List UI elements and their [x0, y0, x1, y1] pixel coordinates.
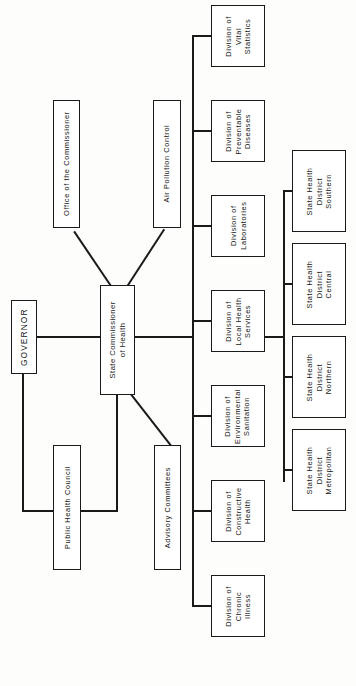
node-district-central[interactable]: State HealthDistrictCentral: [292, 243, 346, 325]
stub-division-5: [192, 510, 212, 512]
connector-governor-down: [22, 374, 24, 512]
stub-division-1: [192, 130, 212, 132]
node-office-of-the-commissioner[interactable]: Office of the Commissioner: [53, 100, 80, 228]
org-chart-canvas: GOVERNOR State Commissionerof Health Off…: [0, 0, 356, 686]
node-district-metropolitan[interactable]: State HealthDistrictMetropolitan: [292, 429, 346, 511]
node-division-constructive-health-label: Division ofConstructiveHealth: [224, 487, 253, 535]
node-public-health-council-label: Public Health Council: [62, 466, 71, 549]
districts-bus: [283, 190, 285, 482]
connector-commissioner-down: [116, 395, 118, 512]
connector-commissioner-to-air-pollution: [125, 229, 165, 289]
node-division-vital-statistics-label: Division ofVitalStatistics: [224, 16, 253, 57]
node-advisory-committees[interactable]: Advisory Committees: [154, 445, 181, 570]
stub-division-2: [192, 225, 212, 227]
stub-division-3: [192, 320, 212, 322]
stub-division-6: [192, 605, 212, 607]
node-division-local-health-services-label: Division ofLocal HealthServices: [224, 297, 253, 345]
connector-governor-to-commissioner: [36, 336, 101, 338]
node-district-northern-label: State HealthDistrictNorthern: [305, 353, 334, 401]
node-division-local-health-services[interactable]: Division ofLocal HealthServices: [211, 290, 265, 352]
node-district-metropolitan-label: State HealthDistrictMetropolitan: [305, 446, 334, 494]
connector-local-health-to-districts: [265, 336, 285, 338]
node-governor[interactable]: GOVERNOR: [11, 300, 37, 374]
node-division-preventable-diseases-label: Division ofPreventableDiseases: [224, 108, 253, 154]
node-district-southern[interactable]: State HealthDistrictSouthern: [292, 150, 346, 232]
node-division-environmental-sanitation[interactable]: Division ofEnvironmentalSanitation: [211, 385, 265, 447]
node-public-health-council[interactable]: Public Health Council: [53, 445, 81, 570]
node-division-vital-statistics[interactable]: Division ofVitalStatistics: [211, 5, 265, 67]
node-district-northern[interactable]: State HealthDistrictNorthern: [292, 336, 346, 418]
node-state-commissioner-label: State Commissionerof Health: [108, 301, 128, 378]
node-air-pollution-control-label: Air Pollution Control: [162, 125, 171, 203]
node-district-southern-label: State HealthDistrictSouthern: [305, 167, 334, 215]
connector-commissioner-to-office: [73, 231, 112, 288]
node-division-environmental-sanitation-label: Division ofEnvironmentalSanitation: [224, 388, 253, 443]
node-division-chronic-illness[interactable]: Division ofChronicIllness: [211, 575, 265, 637]
stub-division-0: [192, 35, 212, 37]
connector-commissioner-to-advisory: [129, 392, 172, 447]
node-office-of-the-commissioner-label: Office of the Commissioner: [62, 112, 71, 217]
node-division-laboratories[interactable]: Division ofLaboratories: [211, 195, 265, 257]
node-state-commissioner-of-health[interactable]: State Commissionerof Health: [100, 285, 135, 395]
node-air-pollution-control[interactable]: Air Pollution Control: [153, 100, 181, 228]
node-division-constructive-health[interactable]: Division ofConstructiveHealth: [211, 480, 265, 542]
node-district-central-label: State HealthDistrictCentral: [305, 260, 334, 308]
node-division-chronic-illness-label: Division ofChronicIllness: [224, 586, 253, 627]
connector-commissioner-to-council: [81, 510, 117, 512]
connector-commissioner-to-divisions: [135, 336, 193, 338]
node-governor-label: GOVERNOR: [19, 308, 30, 366]
stub-division-4: [192, 415, 212, 417]
node-division-preventable-diseases[interactable]: Division ofPreventableDiseases: [211, 100, 265, 162]
node-advisory-committees-label: Advisory Committees: [163, 467, 172, 548]
node-division-laboratories-label: Division ofLaboratories: [228, 202, 247, 250]
